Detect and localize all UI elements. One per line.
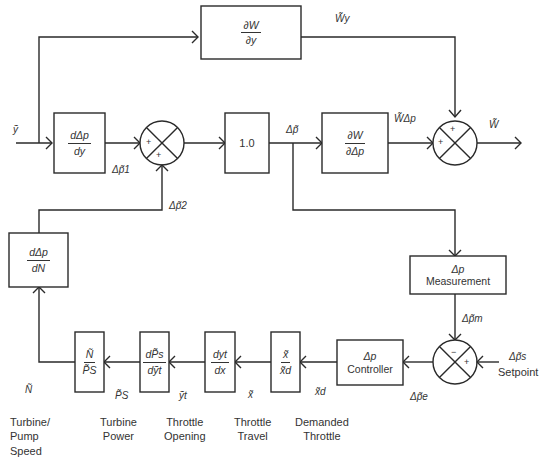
frac-numerator: dP̃s (143, 348, 165, 362)
caption-demanded-throttle: Demanded Throttle (295, 415, 349, 444)
signal-dp: Δp̃ (286, 125, 298, 135)
signal-dp-m: Δp̃m (462, 314, 483, 324)
frac-denominator: dy (72, 144, 87, 157)
block-dW-dy: ∂W∂y (201, 6, 301, 59)
signal-W-y: W̃y (335, 14, 349, 24)
frac-denominator: P̃S (80, 363, 98, 376)
frac-numerator: x̃ (281, 348, 290, 362)
signal-P-S: P̃S (115, 391, 128, 401)
measurement-label: Measurement (426, 275, 490, 287)
block-dW-ddp: ∂W∂Δp (322, 113, 388, 173)
controller-label: Controller (347, 363, 393, 375)
measurement-symbol: Δp (452, 263, 465, 275)
caption-throttle-opening: Throttle Opening (164, 415, 206, 444)
sum3-top-sign: − (451, 348, 456, 357)
frac-denominator: dx (212, 363, 227, 376)
caption-turbine-power: Turbine Power (100, 415, 137, 444)
signal-y-t: ỹt (179, 391, 187, 401)
caption-throttle-travel: Throttle Travel (234, 415, 271, 444)
frac-denominator: ∂Δp (344, 144, 366, 157)
controller-symbol: Δp (364, 350, 377, 362)
frac-numerator: dΔp (68, 129, 91, 143)
block-dp-measurement: Δp Measurement (410, 256, 506, 294)
signal-x: x̃ (248, 390, 253, 400)
block-dPs-dyt: dP̃sdỹt (140, 332, 169, 392)
caption-setpoint: Setpoint (498, 365, 538, 379)
frac-numerator: dyt (211, 348, 229, 362)
frac-numerator: dΔp (27, 246, 50, 260)
caption-turbine-pump-speed: Turbine/ Pump Speed (10, 415, 50, 458)
sum2-top-sign: + (450, 125, 455, 134)
frac-numerator: ∂W (241, 19, 260, 33)
block-unity-gain: 1.0 (225, 113, 269, 173)
frac-denominator: ∂y (244, 33, 258, 46)
block-ddp-dy: dΔpdy (54, 113, 105, 173)
signal-dp1: Δp̃1 (112, 165, 130, 175)
block-x-over-xd: x̃x̃d (271, 332, 300, 392)
frac-denominator: x̃d (278, 363, 293, 376)
signal-W-dp: W̃Δp (394, 114, 416, 124)
sum3-right-sign: + (464, 358, 469, 367)
block-ddp-dN: dΔpdN (9, 233, 68, 287)
block-dp-controller: Δp Controller (337, 340, 403, 385)
unity-gain-value: 1.0 (239, 137, 254, 150)
sum1-left-sign: + (146, 138, 151, 147)
frac-numerator: ∂W (345, 129, 364, 143)
signal-dp-s: Δp̃s (509, 352, 526, 362)
signal-dp-e: Δp̃e (410, 392, 428, 402)
frac-denominator: dN (30, 261, 47, 274)
sum1-bottom-sign: + (156, 151, 161, 160)
signal-W: W̃ (489, 120, 498, 130)
block-N-over-Ps: ÑP̃S (75, 332, 104, 392)
block-dyt-dx: dytdx (205, 332, 235, 392)
frac-denominator: dỹt (145, 363, 163, 376)
signal-y: ỹ (13, 125, 18, 135)
signal-dp2: Δp̃2 (169, 201, 187, 211)
signal-N: Ñ (25, 385, 32, 395)
frac-numerator: Ñ (84, 348, 96, 362)
sum2-left-sign: + (438, 138, 443, 147)
signal-x-d: x̃d (315, 387, 326, 397)
